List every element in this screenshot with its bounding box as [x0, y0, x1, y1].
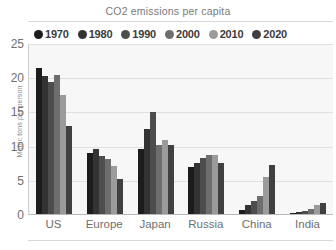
plot-wrapper: 0510152025 [28, 44, 333, 215]
bar-japan-2020[interactable] [168, 145, 174, 215]
y-tick-label: 10 [11, 140, 24, 154]
legend-label: 1970 [45, 28, 69, 40]
y-tick-label: 0 [17, 208, 24, 222]
bar-group-japan [130, 44, 181, 215]
legend-label: 2020 [263, 28, 287, 40]
x-axis-line [29, 214, 333, 215]
legend-marker-icon [34, 30, 43, 39]
legend-marker-icon [78, 30, 87, 39]
legend-marker-icon [121, 30, 130, 39]
bar-group-china [232, 44, 283, 215]
legend-marker-icon [165, 30, 174, 39]
y-tick-label: 15 [11, 105, 24, 119]
legend-item-2020[interactable]: 2020 [252, 28, 287, 40]
bar-russia-2020[interactable] [218, 163, 224, 215]
bar-europe-2020[interactable] [117, 179, 123, 215]
x-label-us: US [28, 218, 79, 238]
y-axis-ticks: 0510152025 [2, 44, 26, 215]
legend-label: 1980 [89, 28, 113, 40]
page-title: CO2 emissions per capita [105, 5, 230, 17]
legend-marker-icon [252, 30, 261, 39]
legend-item-1990[interactable]: 1990 [121, 28, 156, 40]
bar-group-russia [181, 44, 232, 215]
legend-item-1970[interactable]: 1970 [34, 28, 69, 40]
x-axis-labels: USEuropeJapanRussiaChinaIndia [28, 218, 333, 238]
x-label-japan: Japan [130, 218, 181, 238]
plot-area [28, 44, 333, 215]
y-tick-label: 5 [17, 174, 24, 188]
bar-group-us [29, 44, 80, 215]
title-divider [28, 21, 333, 22]
x-label-europe: Europe [79, 218, 130, 238]
legend-item-2010[interactable]: 2010 [209, 28, 244, 40]
legend-label: 2010 [220, 28, 244, 40]
bar-groups [29, 44, 333, 215]
bar-us-2020[interactable] [66, 126, 72, 215]
x-label-russia: Russia [180, 218, 231, 238]
bar-group-india [282, 44, 333, 215]
bottom-divider [28, 240, 333, 241]
x-label-india: India [282, 218, 333, 238]
legend-label: 1990 [132, 28, 156, 40]
y-tick-label: 25 [11, 37, 24, 51]
bar-group-europe [80, 44, 131, 215]
chart-title-bar: CO2 emissions per capita [0, 0, 336, 22]
bar-china-2020[interactable] [269, 165, 275, 215]
chart-container: CO2 emissions per capita 197019801990200… [0, 0, 336, 250]
x-label-china: China [231, 218, 282, 238]
legend-item-2000[interactable]: 2000 [165, 28, 200, 40]
legend-label: 2000 [176, 28, 200, 40]
y-tick-label: 20 [11, 71, 24, 85]
legend-marker-icon [209, 30, 218, 39]
legend-item-1980[interactable]: 1980 [78, 28, 113, 40]
chart-legend: 197019801990200020102020 [34, 24, 334, 44]
